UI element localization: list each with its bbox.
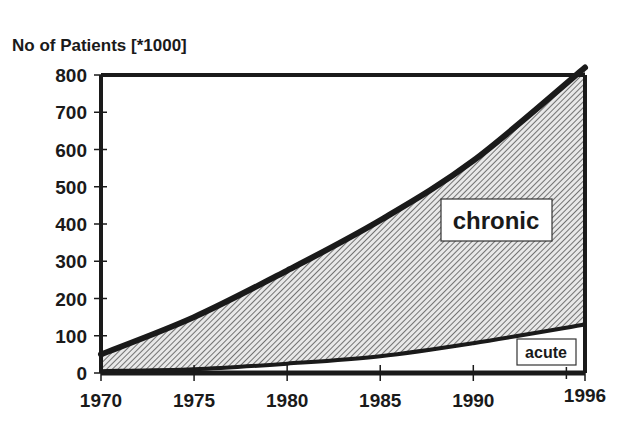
x-tick-label: 1980 xyxy=(266,390,308,411)
chart-canvas: 0100200300400500600700800 19701975198019… xyxy=(0,0,637,439)
x-tick-label: 1990 xyxy=(452,390,494,411)
x-tick-label: 1975 xyxy=(173,390,216,411)
x-tick-label: 1970 xyxy=(80,390,122,411)
y-tick-label: 500 xyxy=(55,177,87,198)
y-tick-label: 300 xyxy=(55,251,87,272)
y-tick-label: 100 xyxy=(55,326,87,347)
y-tick-label: 0 xyxy=(76,363,87,384)
x-tick-label: 1996 xyxy=(564,385,606,406)
y-tick-label: 400 xyxy=(55,214,87,235)
acute-label: acute xyxy=(525,344,567,361)
y-tick-label: 600 xyxy=(55,140,87,161)
y-tick-label: 200 xyxy=(55,289,87,310)
y-axis: 0100200300400500600700800 xyxy=(55,65,107,384)
chronic-label: chronic xyxy=(453,207,540,234)
y-tick-label: 700 xyxy=(55,102,87,123)
y-tick-label: 800 xyxy=(55,65,87,86)
x-tick-label: 1985 xyxy=(359,390,402,411)
